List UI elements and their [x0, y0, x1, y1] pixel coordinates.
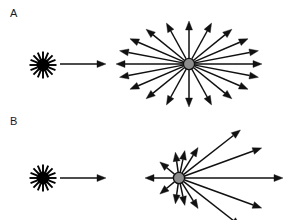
- source-ray: [38, 53, 41, 60]
- arrow-head: [249, 72, 259, 79]
- arrow-shaft: [180, 184, 183, 197]
- scattering-figure: A B: [0, 0, 289, 220]
- arrow-shaft: [177, 161, 179, 172]
- source-ray: [45, 166, 48, 173]
- source-ray: [47, 69, 52, 74]
- source-ray: [49, 60, 56, 63]
- scatter-arrow: [186, 21, 193, 58]
- arrow-head: [130, 39, 140, 46]
- source-ray: [47, 55, 52, 60]
- scatter-arrow: [186, 70, 193, 107]
- scattering-particle: [183, 58, 194, 69]
- arrow-shaft: [184, 136, 234, 175]
- arrow-head: [186, 98, 193, 107]
- arrow-head: [190, 147, 198, 156]
- scatter-arrow: [145, 175, 173, 182]
- scatter-arrow: [184, 182, 241, 220]
- panel-label-a: A: [10, 8, 18, 19]
- arrow-head: [173, 194, 180, 203]
- arrow-head: [130, 83, 140, 90]
- arrow-head: [120, 49, 130, 56]
- source-ray: [33, 182, 38, 187]
- source-ray: [38, 184, 41, 191]
- arrow-shaft: [180, 159, 183, 172]
- scatter-arrow: [173, 152, 180, 172]
- arrow-head: [253, 61, 262, 68]
- arrow-shaft: [167, 182, 175, 188]
- source-ray: [31, 60, 38, 63]
- arrow-head: [252, 202, 262, 209]
- scatter-arrow: [185, 175, 283, 182]
- source-ray: [45, 53, 48, 60]
- arrow-shaft: [177, 184, 179, 195]
- arrow-head: [190, 199, 198, 208]
- source-ray: [33, 69, 38, 74]
- panel-label-b: B: [10, 116, 18, 127]
- arrow-head: [166, 23, 173, 33]
- source-core: [37, 59, 50, 72]
- arrow-head: [116, 61, 125, 68]
- arrow-head: [204, 23, 211, 33]
- arrow-head: [252, 148, 262, 155]
- arrow-shaft: [167, 168, 175, 174]
- panel-a: [30, 21, 263, 107]
- source-ray: [38, 71, 41, 78]
- source-ray: [33, 168, 38, 173]
- source-ray: [47, 168, 52, 173]
- source-core: [37, 172, 50, 185]
- arrow-head: [186, 21, 193, 30]
- source-ray: [31, 180, 38, 183]
- source-ray: [49, 180, 56, 183]
- light-source-starburst: [30, 165, 57, 192]
- arrow-shaft: [184, 182, 234, 220]
- arrow-head: [173, 152, 180, 161]
- source-ray: [31, 67, 38, 70]
- scattering-particle: [173, 172, 184, 183]
- arrow-head: [145, 175, 154, 182]
- arrow-head: [97, 175, 106, 182]
- anisotropic-scatter-arrows: [145, 130, 283, 220]
- arrow-head: [97, 61, 106, 68]
- arrow-head: [120, 72, 130, 79]
- source-ray: [31, 173, 38, 176]
- source-ray: [45, 184, 48, 191]
- light-source-starburst: [30, 52, 57, 79]
- source-ray: [47, 182, 52, 187]
- scatter-arrow: [160, 182, 175, 194]
- arrow-head: [166, 95, 173, 105]
- arrow-head: [249, 49, 259, 56]
- scatter-arrow: [160, 162, 175, 174]
- source-ray: [45, 71, 48, 78]
- source-ray: [49, 173, 56, 176]
- arrow-head: [238, 39, 248, 46]
- source-ray: [33, 55, 38, 60]
- arrow-head: [180, 196, 187, 206]
- source-ray: [38, 166, 41, 173]
- arrow-head: [238, 83, 248, 90]
- panel-b: [30, 130, 284, 220]
- arrow-head: [274, 175, 283, 182]
- arrow-head: [180, 151, 187, 161]
- arrow-head: [204, 95, 211, 105]
- incident-beam-arrow: [60, 61, 106, 68]
- scattering-diagram-canvas: [0, 0, 289, 220]
- scatter-arrow: [173, 184, 180, 204]
- source-ray: [49, 67, 56, 70]
- incident-beam-arrow: [60, 175, 106, 182]
